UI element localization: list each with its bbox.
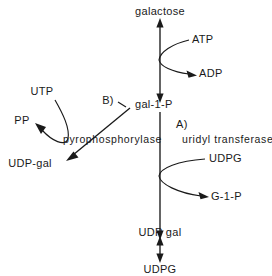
label-marker-a: A) [176,118,188,130]
pyrophosphorylase-diagonal-shaft [73,108,130,155]
label-pp: PP [14,114,29,126]
arrowhead-to-g1p [199,192,210,199]
label-gal-1-p: gal-1-P [135,98,173,110]
label-udpg-inflow: UDPG [209,152,242,164]
label-udp-gal: UDP-gal [8,157,52,169]
atp-adp-curved-arrow [159,40,197,78]
arrowhead-to-udp-gal [66,152,79,162]
label-utp: UTP [31,85,54,97]
pathway-diagram: galactose ATP ADP gal-1-P B) UTP PP pyro… [0,0,272,276]
g1p-outflow-curve [159,176,201,196]
udpgal-udpg-double-arrow [156,236,163,263]
pathway-svg-canvas: galactose ATP ADP gal-1-P B) UTP PP pyro… [0,0,272,276]
arrowhead-up-to-galactose [156,18,163,28]
atp-inflow-curve [159,40,189,60]
marker-b-connector [118,102,126,107]
udpg-g1p-curved-arrow [159,159,209,199]
label-udpg-bottom: UDPG [144,263,177,275]
label-enzyme-pyrophosphorylase: pyrophosphorylase [63,133,162,145]
label-enzyme-uridyl-transferase: uridyl transferase [182,133,272,145]
label-atp: ATP [192,33,213,45]
udpg-inflow-curve [159,159,205,176]
label-adp: ADP [199,67,223,79]
adp-outflow-curve [159,60,189,74]
label-g-1-p: G-1-P [211,190,242,202]
arrowhead-to-adp [187,71,198,78]
label-udp-gal-bottom: UDP gal [139,226,182,238]
galactose-to-gal1p-double-arrow [156,18,163,103]
label-galactose: galactose [135,5,185,17]
arrowhead-down-to-udpg [156,254,163,264]
label-marker-b: B) [102,94,114,106]
gal1p-to-udpgal-arrow [156,112,163,240]
